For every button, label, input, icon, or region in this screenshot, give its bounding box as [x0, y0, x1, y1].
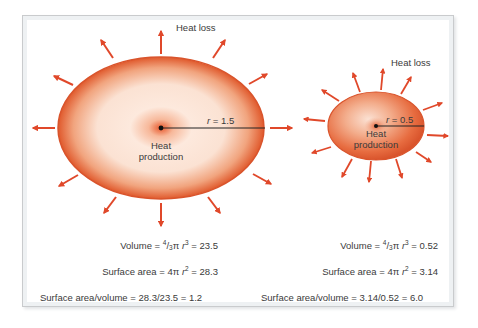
- large-heat-production-label: Heat production: [136, 141, 186, 162]
- arrow-left-icon: [304, 119, 325, 121]
- radius-value: = 1.5: [210, 115, 234, 126]
- heat-production-line1: Heat: [136, 141, 186, 152]
- arrow-up-right-icon: [213, 40, 225, 58]
- large-radius-label: r = 1.5: [207, 116, 234, 126]
- heat-loss-diagram: [0, 0, 478, 328]
- small-heat-production-label: Heat production: [351, 129, 401, 150]
- arrow-right-up-icon: [423, 103, 442, 110]
- arrow-up-icon: [381, 69, 383, 90]
- heat-production-line2: production: [351, 140, 401, 151]
- heat-production-line1: Heat: [351, 129, 401, 140]
- arrow-down-left-icon: [104, 197, 116, 213]
- large-surface-area-formula: Surface area = 4π r2 = 28.3: [102, 266, 218, 277]
- small-volume-formula: Volume = 4/3π r3 = 0.52: [340, 240, 438, 252]
- small-ratio-formula: Surface area/volume = 3.14/0.52 = 6.0: [261, 293, 423, 303]
- arrow-left-down-icon: [312, 147, 331, 153]
- arrow-down-icon: [369, 161, 371, 182]
- heat-production-line2: production: [136, 152, 186, 163]
- arrow-down-left-icon: [342, 159, 352, 177]
- arrow-right-down-icon: [416, 152, 431, 162]
- arrow-left-up-icon: [322, 90, 339, 101]
- radius-value: = 0.5: [389, 114, 413, 125]
- small-heat-loss-label: Heat loss: [391, 58, 431, 68]
- arrow-down-right-icon: [396, 159, 402, 178]
- large-center-dot: [159, 126, 164, 131]
- arrow-up-left-icon: [101, 40, 113, 58]
- arrow-up-left-icon: [353, 73, 360, 92]
- arrow-right-up-icon: [249, 74, 267, 84]
- arrow-left-down-icon: [59, 175, 78, 186]
- large-heat-loss-label: Heat loss: [176, 23, 216, 33]
- small-surface-area-formula: Surface area = 4π r2 = 3.14: [322, 266, 438, 277]
- arrow-up-right-icon: [401, 77, 411, 94]
- small-radius-label: r = 0.5: [386, 115, 413, 125]
- large-ratio-formula: Surface area/volume = 28.3/23.5 = 1.2: [40, 293, 202, 303]
- arrow-right-down-icon: [253, 174, 271, 184]
- arrow-left-up-icon: [54, 76, 73, 85]
- large-volume-formula: Volume = 4/3π r3 = 23.5: [120, 240, 218, 252]
- arrow-right-icon: [427, 135, 448, 136]
- arrow-down-right-icon: [208, 197, 220, 213]
